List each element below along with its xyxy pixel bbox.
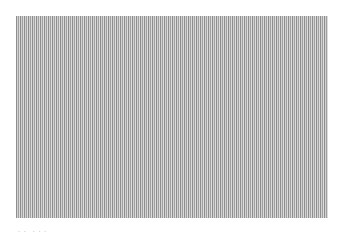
image-caption: . . . . .	[18, 226, 47, 234]
caption-part-2: . . .	[33, 227, 48, 233]
caption-part-1: . .	[18, 227, 27, 233]
striped-image	[16, 16, 328, 218]
